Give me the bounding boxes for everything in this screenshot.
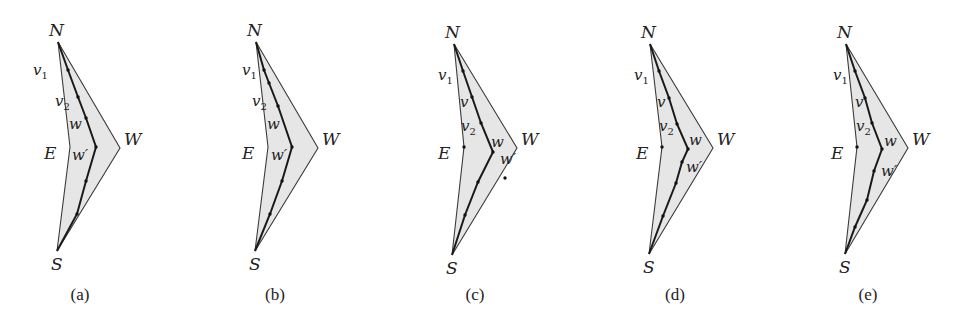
vertex-dot bbox=[75, 212, 78, 215]
vertex-dot bbox=[660, 145, 663, 148]
label-n: N bbox=[836, 22, 853, 42]
vertex-label: w′ bbox=[271, 146, 288, 164]
label-n: N bbox=[444, 22, 461, 42]
vertex-dot bbox=[657, 69, 660, 72]
label-w: W bbox=[717, 129, 736, 149]
label-w: W bbox=[521, 129, 540, 149]
label-s: S bbox=[249, 254, 261, 274]
label-s: S bbox=[643, 257, 655, 277]
vertex-dot bbox=[462, 145, 465, 148]
label-n: N bbox=[246, 20, 263, 40]
vertex-dot bbox=[276, 104, 279, 107]
label-e: E bbox=[830, 143, 844, 163]
shaded-region bbox=[57, 42, 120, 251]
shaded-region bbox=[845, 44, 908, 254]
vertex-dot bbox=[479, 121, 482, 124]
vertex-dot bbox=[853, 69, 856, 72]
label-n: N bbox=[640, 22, 657, 42]
vertex-label: w bbox=[689, 131, 702, 149]
vertex-dot bbox=[267, 81, 270, 84]
label-e: E bbox=[241, 143, 255, 163]
vertex-dot bbox=[94, 145, 97, 148]
vertex-label: w bbox=[491, 133, 504, 151]
panel-c: NWESv1vv2ww′(c) bbox=[437, 22, 540, 304]
vertex-dot bbox=[76, 95, 79, 98]
panel-d: NWESv1vv2ww′(d) bbox=[634, 22, 736, 304]
vertex-label: v1 bbox=[833, 66, 848, 86]
vertex-label: w′ bbox=[72, 146, 89, 164]
label-s: S bbox=[839, 257, 851, 277]
vertex-dot bbox=[855, 145, 858, 148]
panel-b: NWESv1v2ww′(b) bbox=[241, 20, 341, 304]
panel-caption: (e) bbox=[859, 285, 878, 304]
panel-e: NWESv1vv2ww′(e) bbox=[830, 22, 931, 304]
vertex-dot bbox=[463, 213, 466, 216]
vertex-dot bbox=[268, 212, 271, 215]
vertex-label: v bbox=[855, 93, 864, 111]
vertex-label: v1 bbox=[33, 61, 48, 81]
vertex-dot bbox=[853, 225, 856, 228]
label-n: N bbox=[48, 20, 65, 40]
vertex-dot bbox=[680, 160, 683, 163]
label-s: S bbox=[51, 254, 63, 274]
vertex-dot bbox=[84, 116, 87, 119]
vertex-label: v bbox=[460, 93, 469, 111]
panel-caption: (b) bbox=[265, 285, 285, 304]
vertex-dot bbox=[262, 68, 265, 71]
label-e: E bbox=[437, 143, 451, 163]
panel-caption: (c) bbox=[466, 285, 485, 304]
shaded-region bbox=[649, 44, 713, 254]
label-s: S bbox=[446, 258, 458, 278]
vertex-dot bbox=[290, 145, 293, 148]
vertex-dot bbox=[863, 96, 866, 99]
figure-canvas: NWESv1v2ww′(a)NWESv1v2ww′(b)NWESv1vv2ww′… bbox=[0, 0, 971, 320]
vertex-label: v1 bbox=[634, 66, 649, 86]
vertex-dot bbox=[461, 69, 464, 72]
vertex-dot bbox=[675, 122, 678, 125]
vertex-label: w bbox=[267, 115, 280, 133]
vertex-dot bbox=[470, 95, 473, 98]
vertex-dot bbox=[476, 180, 479, 183]
vertex-dot bbox=[872, 169, 875, 172]
vertex-label: v1 bbox=[438, 66, 453, 86]
panel-a: NWESv1v2ww′(a) bbox=[33, 20, 143, 304]
vertex-dot bbox=[667, 96, 670, 99]
panel-caption: (d) bbox=[665, 285, 685, 304]
vertex-dot bbox=[661, 214, 664, 217]
vertex-label: w′ bbox=[881, 162, 898, 180]
vertex-label: w bbox=[884, 132, 897, 150]
label-w: W bbox=[124, 129, 143, 149]
panel-caption: (a) bbox=[71, 285, 90, 304]
label-e: E bbox=[635, 143, 649, 163]
vertex-dot bbox=[66, 68, 69, 71]
vertex-dot bbox=[870, 121, 873, 124]
vertex-dot bbox=[503, 176, 506, 179]
label-e: E bbox=[43, 143, 57, 163]
vertex-dot bbox=[865, 198, 868, 201]
vertex-dot bbox=[280, 179, 283, 182]
vertex-dot bbox=[84, 179, 87, 182]
label-w: W bbox=[322, 129, 341, 149]
vertex-label: w′ bbox=[686, 158, 703, 176]
vertex-label: w bbox=[69, 115, 82, 133]
vertex-dot bbox=[674, 181, 677, 184]
label-w: W bbox=[912, 129, 931, 149]
vertex-label: v1 bbox=[242, 61, 257, 81]
vertex-label: w′ bbox=[500, 150, 517, 168]
vertex-label: v bbox=[657, 93, 666, 111]
